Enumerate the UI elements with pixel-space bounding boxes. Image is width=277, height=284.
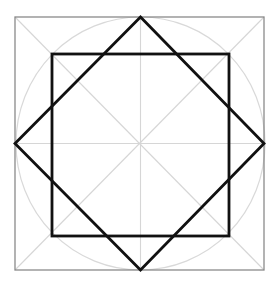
octagram-diagram: [0, 0, 277, 284]
